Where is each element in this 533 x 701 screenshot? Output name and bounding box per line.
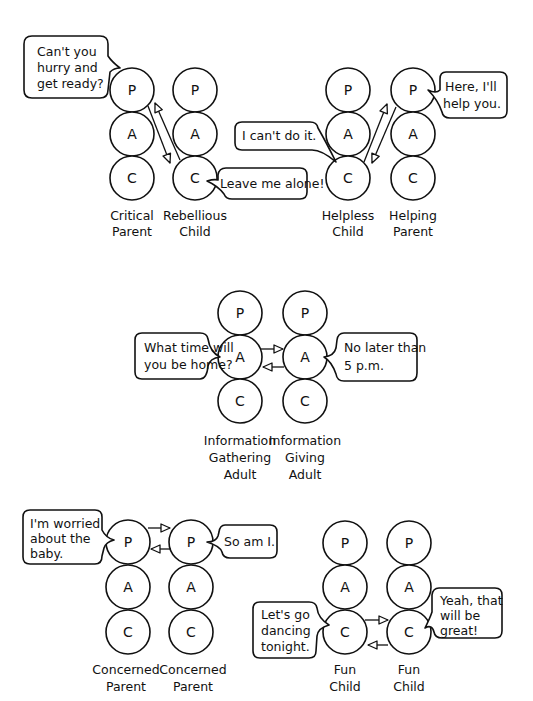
ego-letter-c: C	[190, 170, 200, 186]
role-label: Adult	[224, 467, 257, 482]
transaction-adult-adult: P A C P A C What time will you be home? …	[135, 291, 426, 482]
ego-letter-c: C	[127, 170, 137, 186]
ego-stack-concerned-parent-right: P A C	[169, 520, 213, 654]
role-label: Concerned	[159, 662, 226, 677]
ego-stack-helping-parent: P A C	[391, 68, 435, 200]
role-label: Information	[269, 433, 341, 448]
speech-line: Can't you	[37, 44, 97, 59]
role-label: Child	[332, 224, 364, 239]
role-label: Parent	[112, 224, 152, 239]
speech-line: baby.	[30, 546, 63, 561]
ego-letter-c: C	[404, 624, 414, 640]
speech-line: hurry and	[37, 60, 98, 75]
ego-letter-c: C	[340, 624, 350, 640]
speech-line: I can't do it.	[242, 128, 316, 143]
speech-line: help you.	[443, 96, 501, 111]
ego-stack-information-giving-adult: P A C	[283, 291, 327, 423]
ego-letter-a: A	[343, 126, 353, 142]
role-label: Child	[393, 679, 425, 694]
role-label: Fun	[334, 662, 356, 677]
role-label: Child	[179, 224, 211, 239]
role-label: Concerned	[92, 662, 159, 677]
ego-letter-p: P	[344, 82, 352, 98]
role-label: Parent	[393, 224, 433, 239]
ego-letter-c: C	[235, 393, 245, 409]
transaction-parent-parent: P A C P A C I'm worried about the baby. …	[23, 510, 277, 694]
speech-line: So am I.	[224, 534, 275, 549]
ego-letter-c: C	[186, 624, 196, 640]
ego-letter-p: P	[128, 82, 136, 98]
ego-letter-a: A	[127, 126, 137, 142]
speech-line: Leave me alone!	[220, 176, 324, 191]
speech-line: What time will	[144, 340, 234, 355]
role-label: Gathering	[209, 450, 271, 465]
role-label: Parent	[106, 679, 146, 694]
speech-line: great!	[440, 623, 478, 638]
ego-letter-a: A	[190, 126, 200, 142]
ego-letter-c: C	[300, 393, 310, 409]
ego-letter-c: C	[343, 170, 353, 186]
speech-line: about the	[30, 531, 91, 546]
role-label: Information	[204, 433, 276, 448]
speech-line: dancing	[261, 623, 311, 638]
ego-stack-fun-child-left: P A C	[323, 521, 367, 654]
ego-letter-a: A	[123, 579, 133, 595]
ego-letter-p: P	[236, 305, 244, 321]
role-label: Adult	[289, 467, 322, 482]
role-label: Parent	[173, 679, 213, 694]
role-label: Helpless	[322, 208, 375, 223]
ego-letter-a: A	[235, 349, 245, 365]
ego-letter-a: A	[186, 579, 196, 595]
role-label: Fun	[398, 662, 420, 677]
ego-letter-a: A	[404, 579, 414, 595]
transaction-helpless-helping: P A C P A C I can't do it. Here, I'll he…	[235, 68, 507, 239]
speech-line: Here, I'll	[445, 79, 497, 94]
ego-letter-c: C	[408, 170, 418, 186]
ego-stack-fun-child-right: P A C	[387, 521, 431, 654]
ego-letter-c: C	[123, 624, 133, 640]
speech-line: will be	[440, 608, 481, 623]
role-label: Child	[329, 679, 361, 694]
ego-letter-p: P	[301, 305, 309, 321]
ego-letter-p: P	[191, 82, 199, 98]
ego-letter-p: P	[409, 82, 417, 98]
speech-line: 5 p.m.	[344, 358, 384, 373]
role-label: Giving	[285, 450, 325, 465]
speech-line: Let's go	[261, 607, 310, 622]
transaction-child-child: P A C P A C Let's go dancing tonight. Ye…	[253, 521, 503, 694]
speech-line: you be home?	[144, 357, 233, 372]
role-label: Critical	[110, 208, 154, 223]
ego-letter-p: P	[187, 534, 195, 550]
speech-line: I'm worried	[30, 516, 100, 531]
ego-letter-a: A	[408, 126, 418, 142]
role-label: Rebellious	[163, 208, 227, 223]
ego-letter-p: P	[405, 535, 413, 551]
speech-line: tonight.	[261, 639, 310, 654]
ego-stack-critical-parent: P A C	[110, 68, 154, 200]
transactional-analysis-diagram: P A C P A C Can't you hurry and get read…	[0, 0, 533, 701]
ego-letter-a: A	[340, 579, 350, 595]
ego-stack-helpless-child: P A C	[326, 68, 370, 200]
ego-letter-p: P	[341, 535, 349, 551]
speech-line: Yeah, that	[439, 593, 503, 608]
ego-letter-p: P	[124, 534, 132, 550]
role-label: Helping	[389, 208, 437, 223]
speech-line: get ready?	[37, 76, 104, 91]
speech-line: No later than	[344, 340, 426, 355]
ego-letter-a: A	[300, 349, 310, 365]
